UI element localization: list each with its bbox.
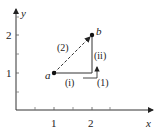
point-b [90,33,94,37]
path-1-label: (1) [97,77,109,89]
segment-ii-label: (ii) [94,50,106,62]
y-tick-label-2: 2 [6,29,12,41]
segment-i-label: (i) [65,77,74,89]
x-tick-label-2: 2 [88,117,94,129]
path-diagram: y x 1 2 1 2 (2) (i) (ii) (1) a b [0,0,161,138]
point-b-label: b [96,25,102,37]
point-a [52,71,56,75]
path-2-label: (2) [57,42,69,54]
axes [16,9,153,110]
x-tick-label-1: 1 [51,117,57,129]
y-axis-label: y [20,7,26,19]
x-axis-label: x [145,117,151,129]
y-tick-label-1: 1 [6,67,12,79]
point-a-label: a [45,69,51,81]
